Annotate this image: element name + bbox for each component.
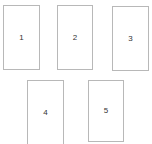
card-label: 3 bbox=[128, 35, 132, 43]
card-label: 5 bbox=[104, 107, 108, 115]
card-label: 1 bbox=[19, 34, 23, 42]
card-label: 2 bbox=[73, 34, 77, 42]
card-4: 4 bbox=[27, 80, 64, 144]
card-3: 3 bbox=[112, 6, 149, 71]
card-1: 1 bbox=[3, 5, 40, 70]
card-label: 4 bbox=[43, 109, 47, 117]
card-5: 5 bbox=[88, 80, 124, 142]
card-2: 2 bbox=[57, 5, 93, 70]
